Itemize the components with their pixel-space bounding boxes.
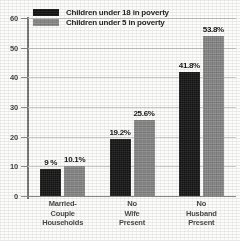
category-label-line: Present (92, 218, 172, 228)
category-label-line: Households (23, 218, 103, 228)
bar-value-label: 53.8% (203, 25, 224, 34)
bar-value-label: 10.1% (64, 155, 85, 164)
legend-label-series-1: Children under 5 in poverty (66, 18, 165, 27)
y-tick-mark (21, 107, 27, 108)
category-label-line: Husband (161, 209, 240, 219)
y-tick-label: 10 (0, 162, 18, 171)
bar-value-label: 19.2% (109, 128, 130, 137)
legend-swatch-series-0-icon (33, 9, 59, 17)
category-label: NoWifePresent (92, 199, 172, 228)
y-tick-mark (21, 48, 27, 49)
y-tick-label: 0 (0, 192, 18, 201)
bar-series-1-category-0 (64, 166, 85, 196)
legend-item: Children under 5 in poverty (33, 18, 169, 27)
bar-series-0-category-2 (179, 72, 200, 196)
y-tick-label: 20 (0, 132, 18, 141)
bar-series-1-category-2 (203, 36, 224, 196)
legend-label-series-0: Children under 18 in poverty (66, 8, 169, 17)
bar-value-label: 9 % (44, 158, 57, 167)
category-label-line: No (92, 199, 172, 209)
bar-series-0-category-1 (110, 139, 131, 196)
category-label-line: No (161, 199, 240, 209)
y-tick-mark (21, 18, 27, 19)
x-axis-line (27, 196, 236, 197)
y-tick-mark (21, 137, 27, 138)
poverty-grouped-bar-chart: 0102030405060 9 %10.1%19.2%25.6%41.8%53.… (0, 0, 240, 241)
category-label-line: Couple (23, 209, 103, 219)
plot-area: 9 %10.1%19.2%25.6%41.8%53.8% (28, 18, 236, 196)
category-label-line: Present (161, 218, 240, 228)
bar-series-0-category-0 (40, 169, 61, 196)
y-tick-mark (21, 166, 27, 167)
category-label: Married-CoupleHouseholds (23, 199, 103, 228)
y-tick-label: 30 (0, 103, 18, 112)
category-label-line: Wife (92, 209, 172, 219)
y-tick-label: 50 (0, 43, 18, 52)
y-tick-mark (21, 196, 27, 197)
category-label-line: Married- (23, 199, 103, 209)
y-tick-label: 60 (0, 14, 18, 23)
y-tick-label: 40 (0, 73, 18, 82)
bar-series-1-category-1 (134, 120, 155, 196)
y-tick-mark (21, 77, 27, 78)
bar-value-label: 25.6% (133, 109, 154, 118)
chart-legend: Children under 18 in poverty Children un… (33, 8, 169, 28)
legend-swatch-series-1-icon (33, 19, 59, 27)
legend-item: Children under 18 in poverty (33, 8, 169, 17)
category-label: NoHusbandPresent (161, 199, 240, 228)
bar-value-label: 41.8% (179, 61, 200, 70)
